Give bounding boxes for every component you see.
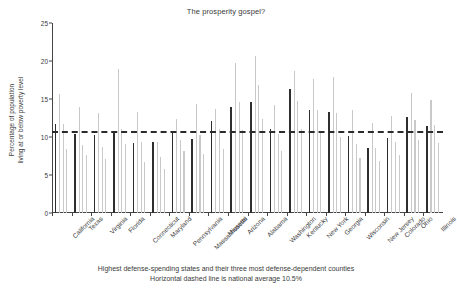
county-bar-2 bbox=[414, 120, 415, 213]
bar-group-texas bbox=[72, 23, 92, 213]
county-bar-3 bbox=[66, 149, 67, 213]
county-bar-1 bbox=[157, 142, 158, 213]
y-axis-tick-label-25: 25 bbox=[41, 20, 48, 27]
county-bar-3 bbox=[359, 158, 360, 213]
county-bar-3 bbox=[379, 161, 380, 213]
state-bar bbox=[426, 126, 428, 213]
state-bar bbox=[211, 121, 213, 213]
state-bar bbox=[74, 134, 76, 213]
bar-group-wisconsin bbox=[345, 23, 365, 213]
caption-line1: Highest defense-spending states and thei… bbox=[98, 265, 354, 272]
plot-area: 0510152025 bbox=[52, 23, 443, 213]
county-bar-2 bbox=[434, 125, 435, 213]
y-axis-label-line1: Percentage of population bbox=[8, 84, 15, 156]
y-axis-tick-label-5: 5 bbox=[44, 172, 48, 179]
county-bar-1 bbox=[118, 69, 119, 213]
bar-group-ohio bbox=[404, 23, 424, 213]
bar-group-missouri bbox=[208, 23, 228, 213]
county-bar-3 bbox=[242, 130, 243, 213]
bar-group-colorado bbox=[384, 23, 404, 213]
county-bar-1 bbox=[235, 63, 236, 213]
bar-group-california bbox=[52, 23, 72, 213]
y-axis-tick-label-0: 0 bbox=[44, 210, 48, 217]
state-bar bbox=[172, 133, 174, 213]
bar-group-connecticut bbox=[130, 23, 150, 213]
county-bar-3 bbox=[301, 129, 302, 213]
county-bar-3 bbox=[223, 149, 224, 213]
county-bar-2 bbox=[395, 142, 396, 213]
county-bar-2 bbox=[199, 135, 200, 213]
state-bar bbox=[270, 129, 272, 213]
county-bar-2 bbox=[258, 85, 259, 213]
state-bar bbox=[191, 139, 193, 213]
y-axis-tick-label-10: 10 bbox=[41, 134, 48, 141]
chart-caption: Highest defense-spending states and thei… bbox=[0, 264, 452, 283]
county-bar-3 bbox=[320, 132, 321, 213]
county-bar-2 bbox=[297, 101, 298, 213]
bar-group-new-jersey bbox=[365, 23, 385, 213]
county-bar-1 bbox=[313, 79, 314, 213]
county-bar-2 bbox=[278, 134, 279, 213]
county-bar-2 bbox=[63, 124, 64, 213]
county-bar-1 bbox=[196, 104, 197, 213]
bar-group-washington bbox=[267, 23, 287, 213]
bar-group-illinois bbox=[423, 23, 443, 213]
state-bar bbox=[94, 135, 96, 213]
state-bar bbox=[328, 112, 330, 213]
bar-group-arizona bbox=[228, 23, 248, 213]
county-bar-1 bbox=[79, 107, 80, 213]
county-bar-3 bbox=[125, 144, 126, 213]
county-bar-1 bbox=[411, 93, 412, 213]
state-bar bbox=[55, 124, 57, 213]
county-bar-2 bbox=[180, 140, 181, 213]
county-bar-3 bbox=[164, 169, 165, 213]
state-bar bbox=[367, 148, 369, 213]
county-bar-1 bbox=[137, 112, 138, 213]
state-bar bbox=[289, 89, 291, 213]
bar-group-massachusetts bbox=[189, 23, 209, 213]
county-bar-3 bbox=[399, 155, 400, 213]
county-bar-2 bbox=[317, 110, 318, 213]
y-axis-label-line2: living at or below poverty level bbox=[17, 77, 24, 164]
bar-group-alabama bbox=[248, 23, 268, 213]
county-bar-2 bbox=[356, 144, 357, 213]
x-axis-tick-label-virginia: Virginia bbox=[108, 215, 128, 235]
county-bar-1 bbox=[98, 113, 99, 213]
county-bar-2 bbox=[121, 129, 122, 213]
x-axis-tick-label-alabama: Alabama bbox=[266, 215, 289, 238]
bar-group-pennsylvania bbox=[169, 23, 189, 213]
county-bar-1 bbox=[59, 94, 60, 213]
county-bar-3 bbox=[86, 155, 87, 213]
county-bar-3 bbox=[418, 140, 419, 213]
county-bar-3 bbox=[203, 154, 204, 213]
county-bar-1 bbox=[372, 123, 373, 213]
y-axis-tick-label-20: 20 bbox=[41, 58, 48, 65]
county-bar-3 bbox=[340, 137, 341, 213]
county-bar-3 bbox=[281, 151, 282, 213]
bar-group-florida bbox=[111, 23, 131, 213]
county-bar-2 bbox=[239, 102, 240, 213]
x-axis-tick-label-illinois: Illinois bbox=[439, 215, 457, 233]
county-bar-3 bbox=[183, 151, 184, 213]
caption-line2: Horizontal dashed line is national avera… bbox=[150, 275, 302, 282]
county-bar-1 bbox=[333, 77, 334, 213]
state-bar bbox=[152, 142, 154, 213]
county-bar-2 bbox=[219, 129, 220, 213]
county-bar-1 bbox=[352, 110, 353, 213]
bar-group-new-york bbox=[306, 23, 326, 213]
x-axis-tick-label-florida: Florida bbox=[127, 215, 146, 234]
state-bar bbox=[113, 132, 115, 213]
y-axis-tick-label-15: 15 bbox=[41, 96, 48, 103]
county-bar-1 bbox=[215, 109, 216, 213]
county-bar-2 bbox=[375, 148, 376, 213]
county-bar-2 bbox=[141, 142, 142, 213]
bar-group-virginia bbox=[91, 23, 111, 213]
county-bar-1 bbox=[430, 100, 431, 213]
state-bar bbox=[230, 107, 232, 213]
x-axis-tick-label-arizona: Arizona bbox=[245, 215, 266, 236]
county-bar-2 bbox=[336, 113, 337, 213]
state-bar bbox=[387, 138, 389, 213]
state-bar bbox=[348, 136, 350, 213]
county-bar-2 bbox=[82, 145, 83, 213]
